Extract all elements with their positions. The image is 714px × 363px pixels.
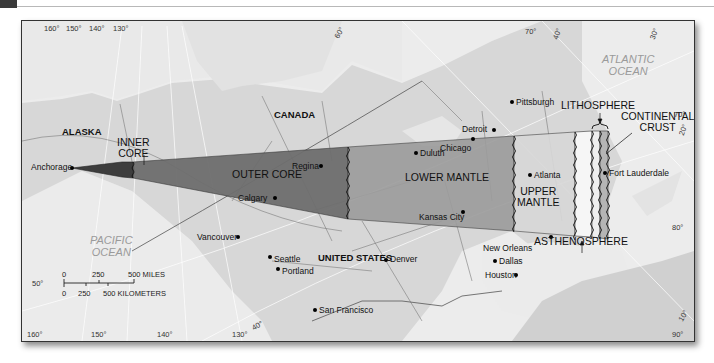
lon-label-70-right: 70°: [674, 110, 685, 120]
lon-label-bottom-140: 140°: [157, 330, 173, 340]
city-kansas-city: Kansas City: [419, 212, 464, 222]
lon-label-80: 80°: [672, 223, 683, 233]
scale-km-250: 250: [78, 289, 91, 299]
header-divider: [17, 6, 714, 7]
city-houston: Houston: [485, 270, 517, 280]
city-calgary: Calgary: [238, 193, 267, 203]
lon-label-top-160: 160°: [44, 24, 60, 34]
scale-km-0: 0: [62, 289, 66, 299]
city-seattle: Seattle: [274, 254, 300, 264]
lat-label-50: 50°: [32, 279, 43, 289]
label-lower-mantle: LOWER MANTLE: [405, 172, 489, 183]
scale-miles-250: 250: [92, 270, 105, 280]
lon-label-bottom-130: 130°: [232, 330, 248, 340]
city-denver: Denver: [390, 254, 417, 264]
city-new-orleans: New Orleans: [483, 243, 532, 253]
city-fort-lauderdale: Fort Lauderdale: [609, 168, 669, 178]
lon-label-bottom-160: 160°: [27, 330, 43, 340]
lon-label-top-150: 150°: [66, 24, 82, 34]
city-portland: Portland: [282, 266, 314, 276]
city-atlanta: Atlanta: [534, 170, 560, 180]
city-regina: Regina: [292, 161, 319, 171]
label-united-states: UNITED STATES: [318, 253, 392, 263]
label-alaska: ALASKA: [62, 127, 102, 137]
scale-miles-0: 0: [62, 270, 66, 280]
label-atlantic-ocean: ATLANTIC OCEAN: [602, 53, 654, 77]
city-vancouver: Vancouver: [197, 232, 237, 242]
lon-label-bottom-150: 150°: [91, 330, 107, 340]
label-inner-core: INNER CORE: [117, 137, 150, 159]
label-canada: CANADA: [274, 110, 315, 120]
lon-label-top-140: 140°: [89, 24, 105, 34]
city-anchorage: Anchorage: [31, 162, 72, 172]
city-detroit: Detroit: [462, 124, 487, 134]
city-pittsburgh: Pittsburgh: [516, 97, 554, 107]
lon-label-top-130: 130°: [113, 24, 129, 34]
city-san-francisco: San Francisco: [319, 305, 373, 315]
section-tab: [0, 0, 17, 8]
label-upper-mantle: UPPER MANTLE: [517, 186, 560, 208]
label-asthenosphere: ASTHENOSPHERE: [534, 236, 628, 247]
lon-label-90: 90°: [672, 330, 683, 340]
city-chicago: Chicago: [440, 143, 471, 153]
map-figure: ALASKA CANADA UNITED STATES ATLANTIC OCE…: [21, 20, 695, 342]
scale-km-500: 500 KILOMETERS: [103, 289, 166, 299]
scale-miles-500: 500 MILES: [128, 270, 165, 280]
label-pacific-ocean: PACIFIC OCEAN: [90, 234, 133, 258]
city-dallas: Dallas: [499, 256, 523, 266]
lon-label-70: 70°: [525, 27, 536, 37]
